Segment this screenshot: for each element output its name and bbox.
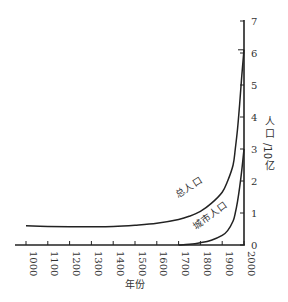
x-tick-label: 1000: [28, 251, 39, 276]
y-tick-label: 2: [251, 176, 257, 187]
svg-text:口: 口: [265, 128, 275, 139]
x-tick-label: 1600: [158, 251, 169, 276]
svg-text:亿: 亿: [265, 159, 275, 171]
y-tick-label: 6: [251, 48, 257, 59]
x-axis-label: 年份: [125, 278, 145, 290]
x-tick-label: 2000: [246, 251, 257, 276]
y-tick-label: 3: [251, 144, 257, 155]
y-axis: 01234567: [240, 16, 257, 251]
y-tick-label: 5: [251, 80, 257, 91]
x-tick-label: 1700: [180, 251, 191, 276]
y-tick-label: 0: [251, 240, 257, 251]
x-tick-label: 1900: [224, 251, 235, 276]
svg-text:人: 人: [265, 116, 275, 127]
x-tick-label: 1100: [49, 251, 60, 276]
x-axis: 1000110012001300140015001600170018001900…: [15, 241, 257, 276]
total-population-curve: [26, 50, 244, 227]
y-tick-label: 4: [251, 112, 257, 123]
x-tick-label: 1500: [137, 251, 148, 276]
x-tick-label: 1800: [202, 251, 213, 276]
svg-text:/10: /10: [262, 143, 273, 159]
x-tick-label: 1400: [115, 251, 126, 276]
y-axis-label: 人口/10亿: [262, 116, 275, 171]
total-population-label: 总人口: [173, 174, 204, 199]
population-chart: 1000110012001300140015001600170018001900…: [0, 0, 288, 302]
x-tick-label: 1200: [71, 251, 82, 276]
y-tick-label: 7: [251, 16, 257, 27]
x-tick-label: 1300: [93, 251, 104, 276]
y-tick-label: 1: [251, 208, 257, 219]
